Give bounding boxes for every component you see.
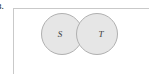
figure-screenshot: 3. S T bbox=[0, 0, 149, 74]
set-label-s: S bbox=[54, 29, 66, 39]
set-label-t: T bbox=[95, 29, 107, 39]
venn-diagram: S T bbox=[0, 0, 149, 74]
